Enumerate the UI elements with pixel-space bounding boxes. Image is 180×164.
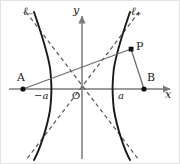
- segments-group: [23, 49, 144, 89]
- x-axis-label: x: [165, 89, 171, 100]
- segment-p-to-b: [131, 49, 144, 89]
- segment-a-to-p: [23, 49, 131, 89]
- vertex-neg-a-label: −a: [34, 91, 48, 101]
- hyperbola-left-branch: [34, 12, 51, 160]
- vertex-pos-a-label: a: [118, 91, 124, 101]
- y-axis-label: y: [73, 5, 79, 16]
- point-p-marker: [129, 47, 134, 52]
- point-a-label: A: [17, 72, 25, 83]
- hyperbola-figure: ℓ− ℓ+ y x O A B P −a a: [0, 0, 180, 164]
- hyperbola-right-branch: [113, 12, 130, 160]
- asymptote-ell-plus-label: ℓ+: [131, 6, 141, 18]
- point-a-marker: [20, 86, 25, 91]
- asymptote-ell-minus-label: ℓ−: [23, 6, 33, 18]
- point-b-marker: [141, 86, 146, 91]
- origin-label: O: [72, 91, 80, 101]
- point-b-label: B: [147, 72, 155, 83]
- point-p-label: P: [136, 41, 143, 52]
- points-group: [20, 47, 146, 92]
